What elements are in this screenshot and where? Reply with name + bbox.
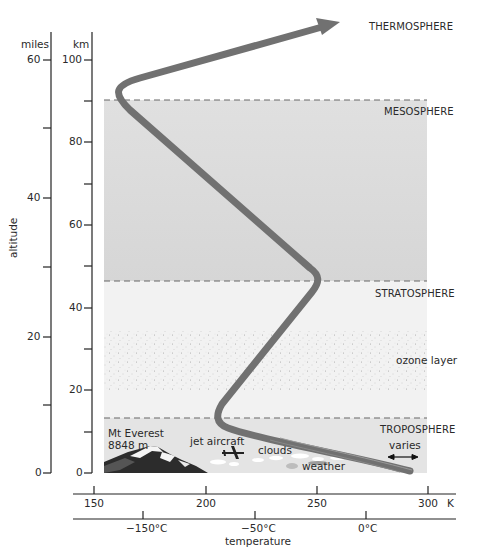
celsius-axis — [73, 511, 456, 519]
km-tick-80: 80 — [69, 135, 82, 147]
weather-label: weather — [302, 460, 345, 472]
atmosphere-diagram — [0, 0, 477, 559]
km-tick-60: 60 — [69, 218, 82, 230]
ozone-layer-label: ozone layer — [396, 354, 457, 366]
km-tick-100: 100 — [62, 53, 82, 65]
varies-label: varies — [389, 439, 421, 451]
miles-tick-60: 60 — [27, 53, 40, 65]
kelvin-tick-200: 200 — [196, 497, 216, 509]
miles-axis-title: miles — [21, 38, 49, 50]
ozone-layer-band — [104, 330, 427, 390]
km-tick-20: 20 — [69, 383, 82, 395]
thermosphere-label: THERMOSPHERE — [369, 21, 453, 32]
kelvin-tick-150: 150 — [84, 497, 104, 509]
km-tick-0: 0 — [76, 466, 83, 478]
celsius-tick-minus150: −150°C — [126, 522, 167, 534]
celsius-tick-0: 0°C — [358, 522, 377, 534]
miles-axis — [43, 32, 51, 473]
km-axis-title: km — [73, 38, 89, 50]
stratosphere-label: STRATOSPHERE — [375, 288, 455, 299]
miles-tick-40: 40 — [27, 191, 40, 203]
miles-tick-0: 0 — [35, 466, 42, 478]
everest-height-label: 8848 m — [108, 439, 148, 451]
mesosphere-label: MESOSPHERE — [384, 106, 454, 117]
curve-arrowhead-icon — [316, 18, 340, 35]
kelvin-unit-label: K — [447, 497, 454, 509]
miles-tick-20: 20 — [27, 330, 40, 342]
kelvin-tick-300: 300 — [418, 497, 438, 509]
altitude-axis-label: altitude — [7, 218, 19, 258]
jet-aircraft-label: jet aircraft — [190, 435, 244, 447]
temperature-axis-label: temperature — [225, 535, 291, 547]
km-tick-40: 40 — [69, 301, 82, 313]
troposphere-label: TROPOSPHERE — [380, 424, 455, 435]
celsius-tick-minus50: −50°C — [241, 522, 276, 534]
kelvin-axis — [73, 486, 456, 494]
clouds-label: clouds — [258, 444, 292, 456]
km-axis — [84, 32, 92, 473]
kelvin-tick-250: 250 — [307, 497, 327, 509]
everest-name-label: Mt Everest — [108, 427, 164, 439]
